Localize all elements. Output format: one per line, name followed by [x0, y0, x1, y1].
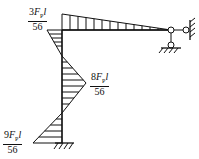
- column-bottom-moment-area: [33, 113, 62, 143]
- label-top-moment: 3FPl 56: [28, 7, 47, 32]
- label-mid-moment: 8FPl 56: [90, 72, 109, 97]
- hinge-icon: [183, 27, 189, 33]
- hinge-icon: [168, 42, 174, 48]
- hinge-icon: [168, 27, 174, 33]
- label-bottom-moment: 9FPl 56: [3, 130, 22, 155]
- hinge-support-system: [159, 18, 195, 53]
- column-bottom-hatch: [39, 119, 62, 137]
- fixed-support: [54, 143, 74, 149]
